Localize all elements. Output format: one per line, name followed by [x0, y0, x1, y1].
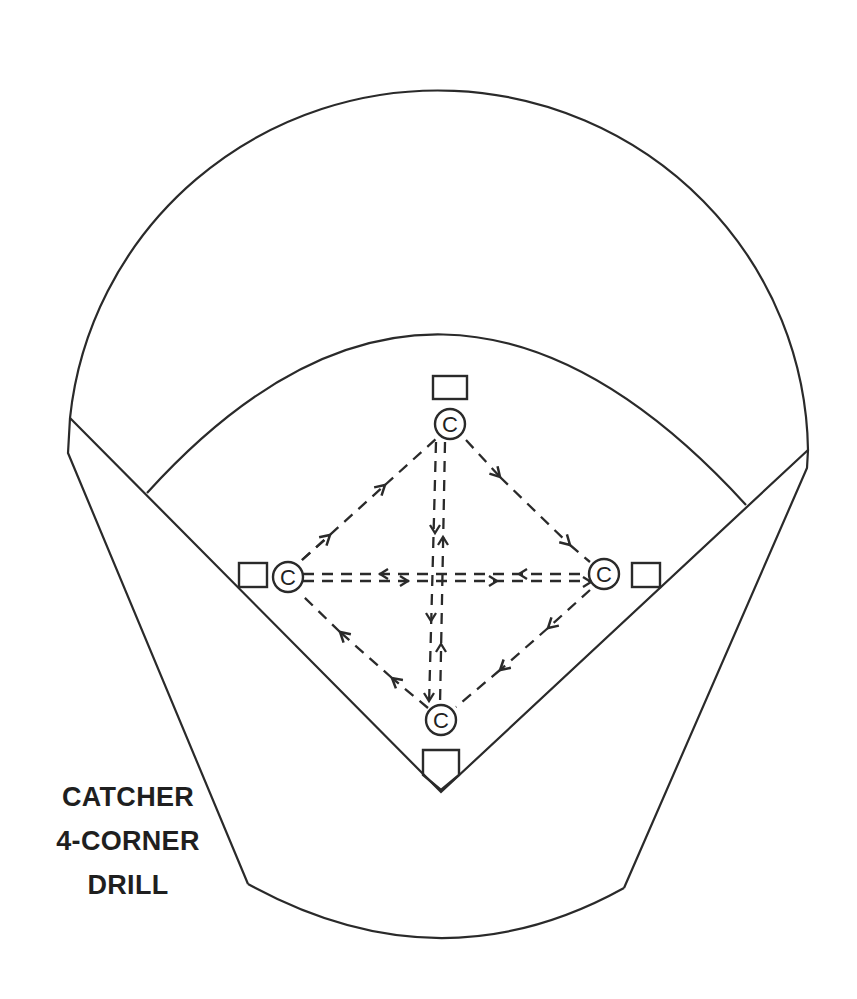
- title-line-1: CATCHER: [48, 775, 208, 819]
- path-top-to-right: [466, 440, 500, 477]
- title-line-3: DRILL: [48, 863, 208, 907]
- path-left-to-top: [302, 485, 385, 560]
- arrowheads: [380, 525, 591, 701]
- catcher-bottom: C: [426, 705, 456, 735]
- path-right-to-bottom: [548, 590, 590, 628]
- svg-text:C: C: [280, 565, 296, 590]
- drill-title: CATCHER 4-CORNER DRILL: [48, 775, 208, 907]
- title-line-2: 4-CORNER: [48, 819, 208, 863]
- svg-text:C: C: [442, 412, 458, 437]
- third-base: [239, 563, 267, 587]
- path-top-bottom-left: [429, 442, 436, 705]
- svg-text:C: C: [433, 708, 449, 733]
- throw-paths: [302, 438, 590, 708]
- home-plate: [423, 750, 459, 790]
- catcher-top: C: [435, 409, 465, 439]
- catcher-left: C: [273, 562, 303, 592]
- catcher-right: C: [589, 559, 619, 589]
- first-base: [632, 563, 660, 587]
- path-bottom-to-left: [392, 678, 428, 708]
- second-base: [433, 376, 467, 399]
- svg-text:C: C: [596, 562, 612, 587]
